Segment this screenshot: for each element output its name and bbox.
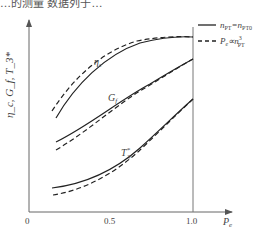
x-tick-1-0: 1.0 [186, 216, 198, 226]
legend: nPT=nPT0 Pe∝n3PT [198, 20, 252, 48]
x-tick-0: 0 [25, 216, 30, 226]
legend-dashed-label: Pe∝n3PT [219, 35, 245, 48]
eta-c-solid-curve [56, 37, 193, 118]
eta-c-dashed-curve [52, 37, 193, 111]
t3-solid-curve [52, 99, 193, 188]
gf-dashed-curve [56, 59, 193, 150]
chart-plot: ηc Gf T*3 0 0.5 1.0 Pe nPT=nPT0 Pe∝n3PT [0, 0, 269, 233]
gf-label: Gf [108, 92, 118, 105]
x-tick-0-5: 0.5 [104, 216, 116, 226]
legend-solid-label: nPT=nPT0 [220, 20, 252, 31]
x-axis-label: Pe [222, 216, 232, 229]
